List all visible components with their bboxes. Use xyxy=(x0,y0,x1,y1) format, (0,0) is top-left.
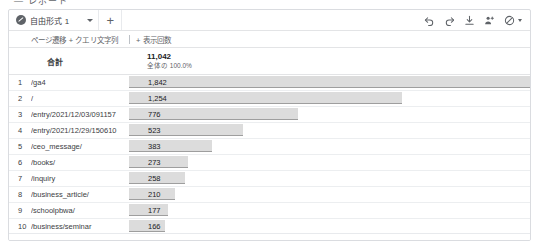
table-row[interactable]: 6/books/273 xyxy=(9,155,530,171)
row-page-path[interactable]: /inquiry xyxy=(31,171,129,186)
column-header-dimension[interactable]: ページ遷移 + クエリ文字列 xyxy=(9,34,129,45)
report-card: 自由形式 1 + xyxy=(8,9,531,241)
row-metric-value: 1,254 xyxy=(129,94,167,103)
row-metric-cell: 210 xyxy=(129,187,530,202)
table-row[interactable]: 4/entry/2021/12/29/150610523 xyxy=(9,123,530,139)
row-rank: 6 xyxy=(9,155,31,170)
row-metric-value: 523 xyxy=(129,126,161,135)
row-metric-value: 1,842 xyxy=(129,78,167,87)
row-metric-value: 210 xyxy=(129,190,161,199)
row-rank: 9 xyxy=(9,203,31,218)
total-value-cell: 11,042 全体の 100.0% xyxy=(129,48,530,74)
table-row[interactable]: 3/entry/2021/12/03/091157776 xyxy=(9,107,530,123)
table-column-headers: ページ遷移 + クエリ文字列 + 表示回数 xyxy=(9,31,530,48)
row-rank: 10 xyxy=(9,219,31,234)
row-page-path[interactable]: / xyxy=(31,91,129,106)
row-metric-cell: 523 xyxy=(129,123,530,138)
row-metric-cell: 383 xyxy=(129,139,530,154)
row-metric-cell: 258 xyxy=(129,171,530,186)
row-metric-cell: 1,842 xyxy=(129,75,530,90)
row-metric-value: 258 xyxy=(129,174,161,183)
row-page-path[interactable]: /entry/2021/12/03/091157 xyxy=(31,107,129,122)
column-divider xyxy=(129,35,130,44)
row-rank: 7 xyxy=(9,171,31,186)
table-row[interactable]: 1/ga41,842 xyxy=(9,75,530,91)
row-page-path[interactable]: /books/ xyxy=(31,155,129,170)
table-row[interactable]: 8/business_article/210 xyxy=(9,187,530,203)
total-value: 11,042 xyxy=(147,52,171,62)
chevron-down-icon[interactable] xyxy=(87,19,93,22)
row-metric-value: 273 xyxy=(129,158,161,167)
table-total-row: 合計 11,042 全体の 100.0% xyxy=(9,48,530,75)
no-access-icon[interactable] xyxy=(504,15,515,26)
total-percent: 全体の 100.0% xyxy=(147,62,192,70)
row-metric-cell: 776 xyxy=(129,107,530,122)
table-row[interactable]: 9/schoolpbwa/177 xyxy=(9,203,530,219)
toolbar-actions xyxy=(424,15,530,26)
cropped-text-fragment: — レポート xyxy=(14,0,68,7)
undo-icon[interactable] xyxy=(424,15,435,26)
share-person-icon[interactable] xyxy=(484,15,495,26)
total-label: 合計 xyxy=(9,48,129,74)
row-page-path[interactable]: /schoolpbwa/ xyxy=(31,203,129,218)
cropped-toolbar-fragment: — レポート xyxy=(0,0,539,9)
row-metric-value: 166 xyxy=(129,222,161,231)
table-row[interactable]: 2/1,254 xyxy=(9,91,530,107)
row-rank: 5 xyxy=(9,139,31,154)
table-row[interactable]: 5/ceo_message/383 xyxy=(9,139,530,155)
row-metric-value: 776 xyxy=(129,110,161,119)
row-page-path[interactable]: /ga4 xyxy=(31,75,129,90)
row-metric-cell: 1,254 xyxy=(129,91,530,106)
row-page-path[interactable]: /business_article/ xyxy=(31,187,129,202)
tab-label: 自由形式 1 xyxy=(30,15,69,26)
row-rank: 2 xyxy=(9,91,31,106)
tab-freeform-1[interactable]: 自由形式 1 xyxy=(9,10,99,30)
row-rank: 8 xyxy=(9,187,31,202)
row-bar xyxy=(129,76,530,88)
add-tab-button[interactable]: + xyxy=(99,10,122,30)
table-rows: 1/ga41,8422/1,2543/entry/2021/12/03/0911… xyxy=(9,75,530,235)
row-bar xyxy=(129,92,402,104)
column-header-metric[interactable]: + 表示回数 xyxy=(136,34,530,45)
card-bottom-edge xyxy=(9,233,530,240)
row-page-path[interactable]: /business/seminar xyxy=(31,219,129,234)
row-rank: 3 xyxy=(9,107,31,122)
row-page-path[interactable]: /entry/2021/12/29/150610 xyxy=(31,123,129,138)
access-chevron-down-icon[interactable] xyxy=(518,19,522,22)
row-metric-cell: 177 xyxy=(129,203,530,218)
row-rank: 4 xyxy=(9,123,31,138)
row-metric-cell: 273 xyxy=(129,155,530,170)
table-row[interactable]: 7/inquiry258 xyxy=(9,171,530,187)
redo-icon[interactable] xyxy=(444,15,455,26)
row-metric-value: 177 xyxy=(129,206,161,215)
row-metric-value: 383 xyxy=(129,142,161,151)
freeform-tab-icon xyxy=(16,15,26,25)
row-page-path[interactable]: /ceo_message/ xyxy=(31,139,129,154)
tab-bar: 自由形式 1 + xyxy=(9,10,530,31)
download-icon[interactable] xyxy=(464,15,475,26)
row-metric-cell: 166 xyxy=(129,219,530,234)
report-table: ページ遷移 + クエリ文字列 + 表示回数 合計 11,042 全体の 100.… xyxy=(9,31,530,235)
row-rank: 1 xyxy=(9,75,31,90)
